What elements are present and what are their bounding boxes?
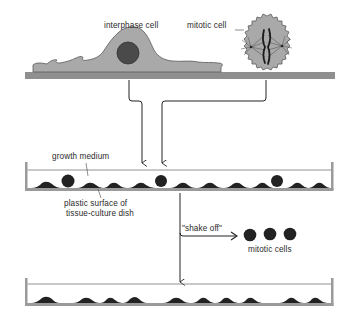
flat-cell	[163, 298, 190, 303]
flat-cell	[100, 298, 122, 303]
shake-off-flow	[180, 193, 237, 282]
flat-cell	[77, 183, 103, 188]
diagram-canvas: interphase cell mitotic cell growth medi…	[0, 0, 349, 313]
dish-bottom	[25, 303, 334, 306]
flow-arrows-top	[129, 80, 266, 163]
flat-cell	[128, 183, 155, 188]
flat-cell	[192, 298, 214, 303]
released-mitotic-cells	[244, 228, 297, 242]
released-mitotic-cell	[244, 229, 257, 242]
interphase-cell-label: interphase cell	[104, 21, 158, 31]
dish-wall-left	[25, 162, 28, 190]
round-mitotic-cell	[62, 175, 75, 188]
mitotic-cell-shape	[241, 14, 292, 70]
flat-cell	[305, 298, 327, 303]
flat-cell	[286, 183, 308, 188]
middle-dish	[25, 162, 334, 198]
flat-cell	[73, 298, 100, 303]
flat-cell	[224, 183, 250, 188]
dish-wall-left	[25, 278, 28, 306]
spindle-pole-right	[281, 45, 283, 47]
flat-cell	[31, 297, 60, 303]
top-panel	[25, 14, 335, 79]
dish-wall-right	[331, 162, 334, 190]
round-mitotic-cell	[271, 175, 283, 187]
flat-cell	[31, 182, 62, 188]
middle-dish-cells	[31, 175, 330, 189]
flat-cell	[170, 183, 196, 188]
growth-medium-label: growth medium	[52, 152, 109, 162]
interphase-cell-shape	[33, 27, 222, 72]
round-mitotic-cell	[155, 175, 167, 187]
bottom-dish-cells	[31, 297, 327, 303]
spindle-pole-left	[250, 46, 252, 48]
dish-wall-right	[331, 278, 334, 306]
flat-cell	[240, 298, 262, 303]
flat-cell	[103, 183, 127, 188]
growth-medium-leader	[86, 163, 88, 176]
flat-cell	[197, 183, 223, 188]
mitotic-cells-label: mitotic cells	[248, 245, 292, 255]
released-mitotic-cell	[264, 228, 277, 241]
mitotic-cell-label: mitotic cell	[187, 21, 226, 31]
flat-cell	[250, 183, 273, 188]
arrow-interphase-to-dish	[129, 80, 142, 163]
bottom-dish	[25, 278, 334, 306]
culture-surface	[25, 72, 335, 79]
flat-cell	[308, 183, 330, 188]
released-mitotic-cell	[284, 228, 297, 241]
shake-off-label: "shake off"	[182, 224, 222, 234]
plastic-surface-label-line1: plastic surface of	[64, 199, 127, 209]
dish-bottom	[25, 188, 334, 191]
arrow-mitotic-to-dish	[162, 80, 266, 163]
flat-cell	[123, 297, 147, 303]
plastic-surface-label-line2: tissue-culture dish	[66, 209, 134, 219]
flat-cell	[279, 298, 304, 303]
flat-cell	[216, 298, 238, 303]
nucleus	[117, 42, 139, 64]
